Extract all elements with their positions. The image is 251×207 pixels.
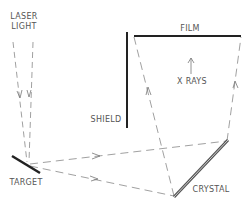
laser-beams (13, 42, 33, 162)
xrays-label: X RAYS (172, 77, 212, 86)
target-label: TARGET (6, 178, 46, 187)
laser-label: LASER (8, 12, 40, 21)
shield-label: SHIELD (88, 115, 124, 124)
crystal-label: CRYSTAL (187, 185, 235, 194)
ray-arrow-icon (90, 153, 100, 181)
film-label: FILM (170, 24, 210, 33)
target-line (12, 156, 40, 173)
light-label: LIGHT (8, 22, 40, 31)
crystal-to-film-rays (134, 37, 241, 196)
x-ray-diagram (0, 0, 251, 207)
